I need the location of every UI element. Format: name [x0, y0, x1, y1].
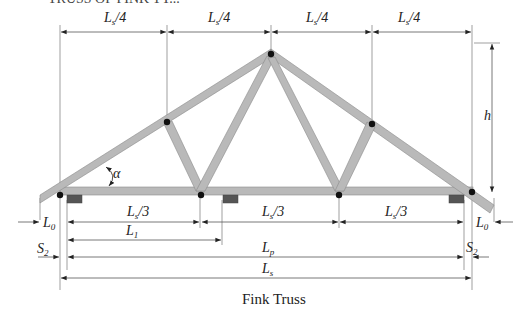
support-right-label: S2 [466, 240, 478, 257]
height-label: h [484, 108, 491, 123]
fink-truss-diagram: Ls/4 Ls/4 Ls/4 Ls/4 h [0, 0, 529, 314]
figure-caption: Fink Truss [242, 291, 306, 307]
top-quarter-dimensions: Ls/4 Ls/4 Ls/4 Ls/4 [61, 10, 471, 32]
bearing-left [67, 195, 82, 203]
overhang-right-label: L0 [475, 215, 489, 232]
ls-dimension: Ls [61, 261, 471, 278]
web-left-outer [164, 121, 205, 191]
bearing-right [449, 195, 464, 203]
dim-label-third-3: Ls/3 [384, 204, 407, 221]
overhang-left-label: L0 [42, 215, 56, 232]
support-left-label: S2 [37, 241, 49, 258]
l1-label: L1 [125, 223, 138, 240]
angle-label: α [113, 166, 121, 181]
lp-label: Lp [261, 240, 275, 257]
dim-label-third-2: Ls/3 [261, 204, 284, 221]
bottom-third-dimensions: Ls/3 Ls/3 Ls/3 [68, 204, 463, 222]
bottom-chord [60, 187, 473, 195]
truss-members [40, 49, 494, 213]
bearings [67, 195, 464, 203]
web-right-outer [335, 122, 375, 191]
dim-label-top-4: Ls/4 [397, 10, 420, 27]
angle-indicator: α [106, 166, 121, 186]
dim-label-top-3: Ls/4 [305, 10, 328, 27]
ls-label: Ls [261, 261, 274, 278]
dim-label-top-2: Ls/4 [207, 10, 230, 27]
lp-dimension: S2 Lp S2 [37, 240, 489, 258]
l1-dimension: L1 [68, 223, 221, 240]
bearing-middle [223, 195, 238, 203]
height-dimension: h [484, 44, 492, 192]
dim-label-top-1: Ls/4 [103, 10, 126, 27]
dim-label-third-1: Ls/3 [126, 204, 149, 221]
